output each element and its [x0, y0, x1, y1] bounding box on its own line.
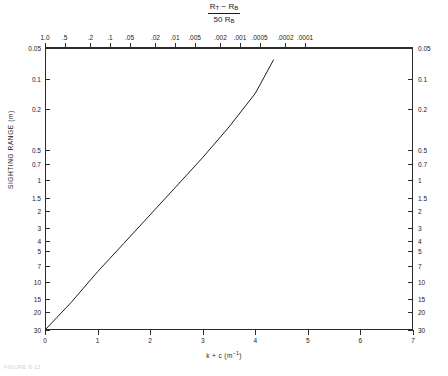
formula-50rb: 50 R: [214, 15, 231, 24]
y-axis-tick-label-right: 2: [418, 207, 422, 214]
figure-caption: FIGURE 6-12: [4, 364, 41, 370]
formula-50rb-subscript: B: [230, 18, 234, 24]
y-axis-title: SIGHTING RANGE (m): [7, 110, 14, 189]
top-axis-tick-label: .0002: [277, 34, 293, 41]
top-axis-tick-label: .005: [188, 34, 201, 41]
x-axis-title-main: k + c (m: [206, 352, 233, 359]
top-axis-tick-label: .0005: [251, 34, 267, 41]
top-axis-tick-label: .01: [170, 34, 179, 41]
y-axis-tick-label-left: 15: [34, 296, 41, 303]
x-axis-title-tail: ): [239, 352, 242, 359]
chart-top-formula-title: RT − RB 50 RB: [0, 2, 448, 25]
x-axis-tick: [150, 330, 151, 335]
y-axis-tick-label-left: 0.5: [32, 146, 41, 153]
x-axis-tick: [413, 330, 414, 335]
y-axis-tick-label-left: 20: [34, 309, 41, 316]
top-axis-tick-label: .05: [125, 34, 134, 41]
y-axis-tick-label-right: 30: [418, 327, 425, 334]
y-axis-tick-label-right: 1: [418, 177, 422, 184]
y-axis-tick-label-right: 0.1: [418, 75, 427, 82]
top-axis-tick-label: .02: [151, 34, 160, 41]
x-axis-tick-label: 2: [148, 337, 152, 344]
y-axis-tick-label-left: 4: [37, 238, 41, 245]
y-axis-tick-label-right: 3: [418, 225, 422, 232]
y-axis-tick-label-left: 1: [37, 177, 41, 184]
top-axis-tick-label: .5: [62, 34, 67, 41]
y-axis-tick-label-right: 1.5: [418, 194, 427, 201]
y-axis-tick-label-right: 4: [418, 238, 422, 245]
x-axis-tick: [45, 330, 46, 335]
y-axis-tick-label-left: 30: [34, 327, 41, 334]
y-axis-tick-label-left: 7: [37, 262, 41, 269]
top-axis-tick-label: .002: [214, 34, 227, 41]
sighting-range-polyline: [45, 60, 274, 330]
sighting-range-chart: RT − RB 50 RB 1.0.5.2.1.05.02.01.005.002…: [0, 0, 448, 376]
y-axis-tick-label-left: 0.7: [32, 161, 41, 168]
y-axis-tick-label-right: 0.5: [418, 146, 427, 153]
formula-numerator: RT − RB: [208, 2, 240, 14]
x-axis-title: k + c (m−1): [0, 350, 448, 359]
y-axis-tick-label-right: 0.2: [418, 106, 427, 113]
formula-rb-subscript: B: [234, 5, 238, 11]
y-axis-tick-label-right: 5: [418, 248, 422, 255]
x-axis-tick-label: 5: [306, 337, 310, 344]
y-axis-tick-label-left: 0.2: [32, 106, 41, 113]
y-axis-tick-label-left: 2: [37, 207, 41, 214]
x-axis-tick: [98, 330, 99, 335]
x-axis-tick: [308, 330, 309, 335]
y-axis-tick-label-right: 7: [418, 262, 422, 269]
x-axis-tick-label: 6: [359, 337, 363, 344]
top-axis-tick-label: .2: [88, 34, 93, 41]
top-contrast-axis: 1.0.5.2.1.05.02.01.005.002.001.0005.0002…: [45, 40, 413, 48]
y-axis-tick-label-right: 0.7: [418, 161, 427, 168]
top-axis-tick-label: .0001: [297, 34, 313, 41]
y-axis-tick-label-left: 0.05: [28, 45, 41, 52]
y-axis-tick-label-right: 0.05: [418, 45, 431, 52]
top-axis-tick-label: .001: [234, 34, 247, 41]
y-axis-tick-label-left: 10: [34, 278, 41, 285]
x-axis-tick-label: 1: [96, 337, 100, 344]
y-axis-tick-label-right: 20: [418, 309, 425, 316]
y-axis-tick-label-right: 10: [418, 278, 425, 285]
y-axis-tick-label-left: 0.1: [32, 75, 41, 82]
top-axis-tick-label: .1: [107, 34, 112, 41]
x-axis-tick: [255, 330, 256, 335]
data-line-series: [45, 48, 413, 330]
y-axis-tick-label-left: 1.5: [32, 194, 41, 201]
x-axis-tick: [360, 330, 361, 335]
y-axis-tick-label-left: 5: [37, 248, 41, 255]
x-axis-tick-label: 3: [201, 337, 205, 344]
x-axis-tick: [203, 330, 204, 335]
x-axis-tick-label: 0: [43, 337, 47, 344]
y-axis-tick-label-right: 15: [418, 296, 425, 303]
x-axis-tick-label: 4: [253, 337, 257, 344]
y-axis-tick-label-left: 3: [37, 225, 41, 232]
formula-denominator: 50 RB: [0, 14, 448, 25]
x-axis-tick-label: 7: [411, 337, 415, 344]
top-axis-tick-label: 1.0: [40, 34, 49, 41]
